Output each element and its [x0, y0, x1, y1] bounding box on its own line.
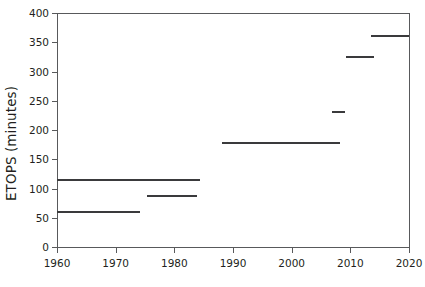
y-tick-label-250: 250: [9, 96, 49, 107]
y-tick-250: [52, 101, 57, 102]
y-tick-label-200: 200: [9, 125, 49, 136]
data-segment: [371, 35, 409, 37]
y-tick-400: [52, 13, 57, 14]
x-tick-2000: [292, 248, 293, 253]
y-tick-150: [52, 159, 57, 160]
y-tick-label-50: 50: [9, 213, 49, 224]
y-tick-label-150: 150: [9, 154, 49, 165]
y-tick-100: [52, 189, 57, 190]
y-tick-label-300: 300: [9, 67, 49, 78]
x-tick-label-2010: 2010: [320, 258, 380, 269]
data-segment: [332, 111, 345, 113]
x-tick-1990: [233, 248, 234, 253]
plot-right-border: [409, 13, 410, 248]
x-tick-label-2020: 2020: [379, 258, 425, 269]
y-tick-label-350: 350: [9, 37, 49, 48]
x-tick-label-1970: 1970: [86, 258, 146, 269]
data-segment: [57, 211, 140, 213]
x-tick-1960: [57, 248, 58, 253]
y-tick-300: [52, 72, 57, 73]
y-tick-label-0: 0: [9, 242, 49, 253]
data-segment: [222, 142, 340, 144]
x-tick-label-2000: 2000: [262, 258, 322, 269]
data-segment: [346, 56, 374, 58]
data-segment: [57, 179, 200, 181]
x-tick-label-1990: 1990: [203, 258, 263, 269]
x-tick-label-1980: 1980: [144, 258, 204, 269]
x-tick-2010: [350, 248, 351, 253]
x-tick-1980: [174, 248, 175, 253]
y-tick-200: [52, 130, 57, 131]
y-tick-50: [52, 218, 57, 219]
x-tick-label-1960: 1960: [27, 258, 87, 269]
y-tick-350: [52, 42, 57, 43]
x-tick-1970: [116, 248, 117, 253]
y-tick-label-100: 100: [9, 184, 49, 195]
x-tick-2020: [409, 248, 410, 253]
data-segment: [147, 195, 197, 197]
y-tick-label-400: 400: [9, 8, 49, 19]
plot-top-border: [57, 13, 410, 14]
chart-container: ETOPS (minutes) 050100150200250300350400…: [0, 0, 425, 287]
